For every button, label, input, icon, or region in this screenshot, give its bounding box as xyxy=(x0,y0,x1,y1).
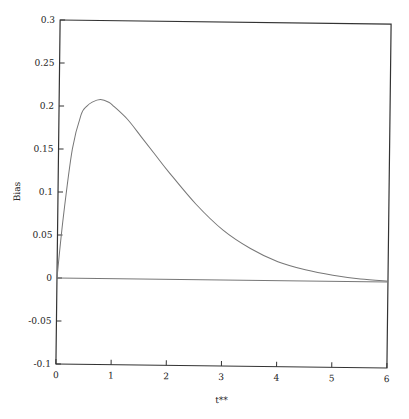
y-tick-label: 0 xyxy=(46,273,52,283)
y-tick-label: 0.05 xyxy=(32,230,52,240)
y-tick-label: 0.3 xyxy=(41,15,56,25)
y-tick-label: 0.25 xyxy=(34,58,54,68)
x-axis: 0123456 xyxy=(53,359,390,384)
series-zero-line xyxy=(57,278,388,282)
x-tick-label: 6 xyxy=(384,374,390,384)
x-tick-label: 0 xyxy=(53,370,59,380)
y-tick-label: -0.1 xyxy=(34,359,51,369)
x-tick-label: 3 xyxy=(218,372,224,382)
x-tick-label: 4 xyxy=(274,373,280,383)
y-tick-label: 0.1 xyxy=(39,187,53,197)
x-tick-label: 1 xyxy=(108,371,114,381)
y-tick-label: 0.2 xyxy=(40,101,54,111)
y-tick-label: -0.05 xyxy=(28,316,51,326)
x-tick-label: 2 xyxy=(163,371,169,381)
x-axis-label: t** xyxy=(215,395,228,405)
bias-chart: -0.1-0.0500.050.10.150.20.250.3 0123456 … xyxy=(0,0,409,419)
y-axis-label: Bias xyxy=(12,181,22,201)
plot-frame xyxy=(56,20,391,368)
x-tick-label: 5 xyxy=(329,373,335,383)
series-layer xyxy=(57,99,390,282)
y-tick-label: 0.15 xyxy=(33,144,53,154)
series-bias-curve xyxy=(57,99,390,282)
